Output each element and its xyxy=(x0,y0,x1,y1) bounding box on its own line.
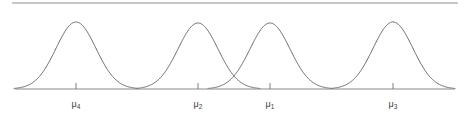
normal-curve-mu_4 xyxy=(14,22,138,88)
normal-curve-mu_3 xyxy=(331,22,455,88)
figure-canvas: μ4μ2μ1μ3 xyxy=(0,0,467,127)
axis-tick-label-μ4: μ4 xyxy=(72,99,81,110)
axis-tick-label-μ1: μ1 xyxy=(266,99,275,110)
tick-label-subscript: 3 xyxy=(394,103,398,110)
axis-tick-label-μ3: μ3 xyxy=(389,99,398,110)
normal-curves-figure: μ4μ2μ1μ3 xyxy=(0,0,467,127)
axis-tick-label-μ2: μ2 xyxy=(194,99,203,110)
normal-curve-mu_2 xyxy=(136,23,260,88)
normal-curve-mu_1 xyxy=(208,23,332,88)
curves-group xyxy=(14,22,455,88)
axis-ticks-group xyxy=(76,83,393,89)
axis-labels-group: μ4μ2μ1μ3 xyxy=(72,99,398,110)
tick-label-subscript: 2 xyxy=(199,103,203,110)
tick-label-subscript: 4 xyxy=(77,103,81,110)
tick-label-subscript: 1 xyxy=(271,103,275,110)
